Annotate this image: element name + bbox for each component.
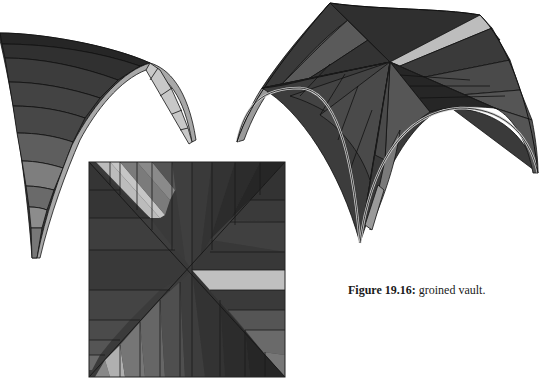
figure-caption-text: groined vault. [416,283,486,297]
figure-canvas [0,0,544,379]
figure-caption: Figure 19.16: groined vault. [348,283,485,298]
groined-vault-plan-view [89,162,285,377]
figure-caption-label: Figure 19.16: [348,283,416,297]
